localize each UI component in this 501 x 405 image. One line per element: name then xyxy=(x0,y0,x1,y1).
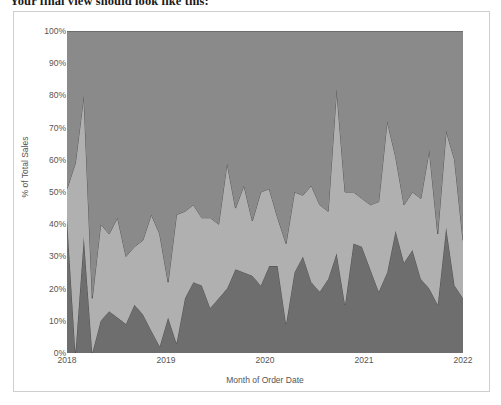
x-axis-title: Month of Order Date xyxy=(67,375,463,385)
y-axis-tick: 10% xyxy=(22,316,66,326)
plot-area[interactable] xyxy=(67,31,463,353)
y-axis-tick: 100% xyxy=(22,26,66,36)
chart-frame: 100%90%80%70%60%50%40%30%20%10%0% % of T… xyxy=(13,11,490,392)
x-axis-tick: 2018 xyxy=(58,355,77,365)
x-axis-tick: 2022 xyxy=(454,355,473,365)
stacked-area-chart[interactable] xyxy=(67,31,463,353)
y-axis-tick: 20% xyxy=(22,284,66,294)
x-axis-tick-group: 20182019202020212022 xyxy=(67,355,463,369)
y-axis-tick: 30% xyxy=(22,251,66,261)
x-axis-tick: 2020 xyxy=(256,355,275,365)
x-axis-group: 20182019202020212022 Month of Order Date xyxy=(67,355,463,395)
y-axis-tick: 90% xyxy=(22,58,66,68)
y-axis-title: % of Total Sales xyxy=(20,107,30,227)
x-axis-tick: 2019 xyxy=(157,355,176,365)
x-axis-tick: 2021 xyxy=(355,355,374,365)
page-caption: Your final view should look like this: xyxy=(10,0,490,8)
y-axis-tick: 80% xyxy=(22,90,66,100)
